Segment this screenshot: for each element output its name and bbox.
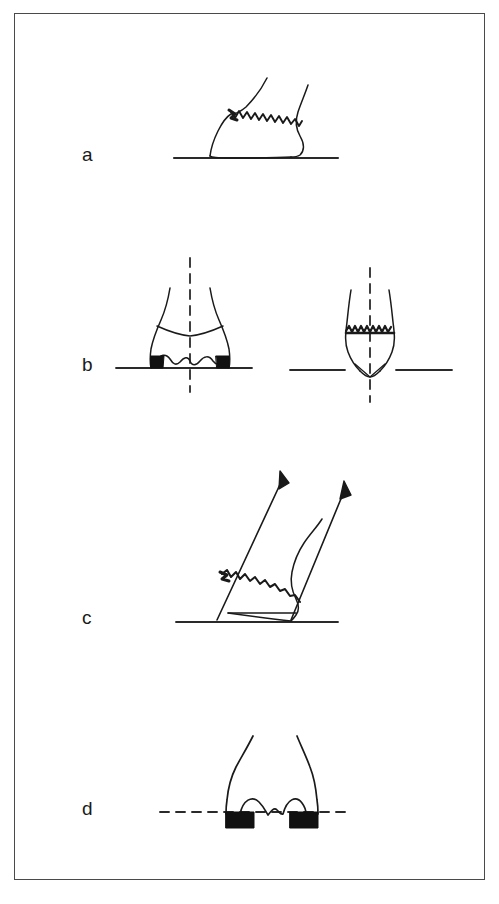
panel-label-a: a [82,145,93,164]
figure-root: a b c d [0,0,499,904]
panel-label-d: d [82,799,93,818]
panel-label-c: c [82,608,92,627]
panel-label-b: b [82,355,93,374]
